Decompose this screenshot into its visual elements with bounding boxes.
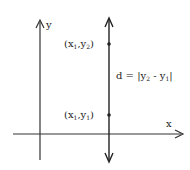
- point-label-x1-y2: (x1,y2): [64, 38, 94, 50]
- point-label-x1-y1: (x1,y1): [64, 109, 94, 121]
- x-axis-label: x: [166, 118, 172, 129]
- point-x1-y2: [107, 42, 111, 46]
- distance-formula: d = |y2 - y1|: [116, 70, 173, 82]
- y-axis-label: y: [45, 19, 52, 30]
- point-x1-y1: [107, 113, 111, 117]
- distance-diagram: y x (x1,y2) (x1,y1) d = |y2 - y1|: [0, 0, 190, 170]
